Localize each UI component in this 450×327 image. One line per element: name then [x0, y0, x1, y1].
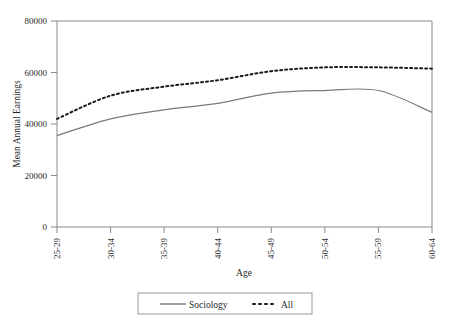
- x-tick-label: 30-34: [106, 238, 116, 259]
- chart-legend: Sociology All: [138, 293, 312, 314]
- legend-label-all: All: [281, 300, 294, 310]
- y-tick-label: 20000: [25, 171, 48, 181]
- x-tick-label: 55-59: [373, 238, 383, 259]
- x-tick-label: 60-64: [427, 238, 437, 259]
- x-axis-title: Age: [236, 268, 252, 278]
- x-tick-label: 25-29: [52, 238, 62, 259]
- legend-label-sociology: Sociology: [189, 300, 228, 310]
- y-tick-label: 60000: [25, 68, 48, 78]
- x-tick-label: 35-39: [159, 238, 169, 259]
- x-tick-label: 50-54: [320, 238, 330, 259]
- y-tick-label: 40000: [25, 119, 48, 129]
- y-tick-label: 80000: [25, 16, 48, 26]
- chart-background: [0, 0, 450, 327]
- x-tick-label: 40-44: [213, 238, 223, 259]
- y-tick-label: 0: [43, 222, 48, 232]
- y-axis-title: Mean Annual Earnings: [12, 80, 22, 168]
- x-tick-label: 45-49: [266, 238, 276, 259]
- line-chart-canvas: 80000 60000 40000 20000 0 25-29 30-34 35…: [0, 0, 450, 327]
- chart-figure: 80000 60000 40000 20000 0 25-29 30-34 35…: [0, 0, 450, 327]
